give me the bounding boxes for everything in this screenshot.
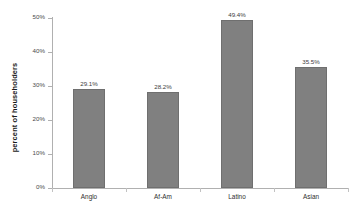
bar-value-label: 28.2% bbox=[126, 83, 200, 90]
y-axis-tick-label: 50% bbox=[33, 13, 45, 20]
bar-value-label: 29.1% bbox=[52, 80, 126, 87]
x-axis-tick-mark bbox=[274, 188, 275, 192]
x-axis-tick-mark bbox=[52, 188, 53, 192]
y-axis-title-text: percent of householders bbox=[11, 62, 20, 152]
x-axis-category-label: Asian bbox=[274, 193, 348, 200]
bar[interactable] bbox=[221, 20, 253, 188]
y-axis-tick: 0% bbox=[0, 188, 52, 189]
y-axis-tick: 20% bbox=[0, 120, 52, 121]
plot-area: 29.1%28.2%49.4%35.5% bbox=[52, 18, 348, 188]
y-axis-tick: 50% bbox=[0, 18, 52, 19]
x-axis-category-label: Af-Am bbox=[126, 193, 200, 200]
bar[interactable] bbox=[147, 92, 179, 188]
x-axis-category-label: Anglo bbox=[52, 193, 126, 200]
bar-group: 35.5% bbox=[274, 18, 348, 188]
y-axis-tick-label: 30% bbox=[33, 81, 45, 88]
y-axis-tick-label: 40% bbox=[33, 47, 45, 54]
y-axis-tick: 30% bbox=[0, 86, 52, 87]
y-axis-title: percent of householders bbox=[7, 0, 23, 214]
y-axis-tick: 10% bbox=[0, 154, 52, 155]
y-axis-tick-label: 0% bbox=[36, 183, 45, 190]
y-axis-tick-label: 20% bbox=[33, 115, 45, 122]
bar-group: 28.2% bbox=[126, 18, 200, 188]
bar-group: 49.4% bbox=[200, 18, 274, 188]
x-axis-tick-mark bbox=[348, 188, 349, 192]
bar[interactable] bbox=[73, 89, 105, 188]
bar-value-label: 35.5% bbox=[274, 58, 348, 65]
bar-chart: percent of householders 0%10%20%30%40%50… bbox=[0, 0, 356, 214]
x-axis-tick-mark bbox=[126, 188, 127, 192]
y-axis-tick-label: 10% bbox=[33, 149, 45, 156]
bar[interactable] bbox=[295, 67, 327, 188]
y-axis-tick: 40% bbox=[0, 52, 52, 53]
bar-group: 29.1% bbox=[52, 18, 126, 188]
x-axis-tick-mark bbox=[200, 188, 201, 192]
bar-value-label: 49.4% bbox=[200, 11, 274, 18]
x-axis-category-label: Latino bbox=[200, 193, 274, 200]
